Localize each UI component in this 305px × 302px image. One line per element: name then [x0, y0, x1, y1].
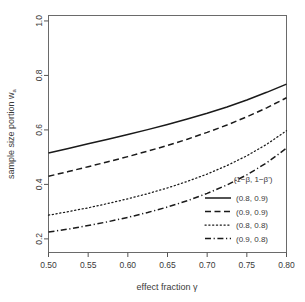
y-axis-title-main: sample size portion w — [6, 92, 16, 179]
legend-item-label: (0.8, 0.8) — [236, 221, 268, 230]
chart-background — [0, 0, 305, 302]
y-tick-label: 0.6 — [34, 124, 44, 136]
y-axis-title: sample size portion wa — [6, 88, 17, 179]
x-tick-label: 0.60 — [120, 260, 137, 270]
x-tick-label: 0.65 — [159, 260, 176, 270]
legend-item-label: (0.9, 0.9) — [236, 208, 268, 217]
x-tick-label: 0.80 — [278, 260, 295, 270]
y-tick-label: 1.0 — [34, 15, 44, 27]
x-tick-label: 0.50 — [40, 260, 57, 270]
legend-title: (1−β, 1−β') — [234, 175, 273, 184]
y-tick-label: 0.2 — [34, 233, 44, 245]
figure-container: 0.500.550.600.650.700.750.80 0.20.40.60.… — [0, 0, 305, 302]
line-chart: 0.500.550.600.650.700.750.80 0.20.40.60.… — [0, 0, 305, 302]
legend-item-label: (0.8, 0.9) — [236, 194, 268, 203]
legend-item-label: (0.9, 0.8) — [236, 235, 268, 244]
x-tick-label: 0.75 — [239, 260, 256, 270]
y-tick-label: 0.4 — [34, 178, 44, 190]
x-tick-label: 0.55 — [80, 260, 97, 270]
x-tick-label: 0.70 — [199, 260, 216, 270]
y-tick-label: 0.8 — [34, 69, 44, 81]
x-axis-title: effect fraction γ — [137, 282, 198, 292]
